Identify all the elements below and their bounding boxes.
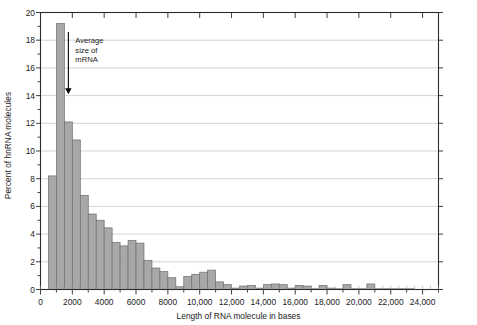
annotation-line-1: Average — [75, 36, 103, 46]
x-tick-label: 6000 — [127, 297, 146, 307]
y-tick-label: 10 — [26, 146, 35, 156]
x-tick-label: 0 — [38, 297, 43, 307]
histogram-bar — [160, 271, 168, 289]
histogram-bar — [367, 284, 375, 290]
histogram-bar — [208, 270, 216, 289]
histogram-bar — [200, 272, 208, 289]
histogram-bar — [96, 220, 104, 289]
annotation-arrow-head — [65, 88, 71, 94]
x-tick-label: 24,000 — [410, 297, 436, 307]
y-tick-label: 18 — [26, 35, 35, 45]
y-tick-label: 12 — [26, 118, 35, 128]
histogram-bar — [263, 285, 271, 290]
histogram-bar — [279, 285, 287, 290]
y-tick-label: 2 — [30, 257, 35, 267]
histogram-bar — [112, 242, 120, 289]
x-tick-label: 20,000 — [346, 297, 372, 307]
y-tick-label: 16 — [26, 63, 35, 73]
x-tick-label: 4000 — [95, 297, 114, 307]
histogram-bar — [216, 282, 224, 290]
y-tick-label: 6 — [30, 201, 35, 211]
average-mrna-annotation: Average size of mRNA — [75, 36, 103, 65]
histogram-bar — [224, 285, 232, 290]
histogram-bar — [343, 285, 351, 290]
histogram-bar — [247, 285, 255, 289]
histogram-bar — [72, 140, 80, 290]
y-tick-label: 20 — [26, 8, 35, 18]
y-tick-label: 8 — [30, 174, 35, 184]
histogram-bar — [120, 246, 128, 290]
y-axis-tick-labels: 02468101214161820 — [16, 0, 38, 290]
y-axis-label: Percent of hnRNA molecules — [5, 91, 14, 198]
histogram-bar — [48, 176, 56, 290]
y-tick-label: 14 — [26, 91, 35, 101]
histogram-bar — [80, 195, 88, 289]
histogram-bar — [144, 260, 152, 289]
x-tick-label: 16,000 — [282, 297, 308, 307]
x-axis-label: Length of RNA molecule in bases — [0, 311, 477, 321]
histogram-bar — [104, 228, 112, 290]
histogram-bar — [192, 274, 200, 289]
x-tick-label: 8000 — [159, 297, 178, 307]
x-tick-label: 2000 — [63, 297, 82, 307]
histogram-bar — [136, 243, 144, 289]
annotation-line-3: mRNA — [75, 55, 103, 65]
x-tick-label: 22,000 — [378, 297, 404, 307]
x-tick-label: 14,000 — [251, 297, 277, 307]
histogram-bar — [128, 240, 136, 289]
histogram-bar — [295, 285, 303, 289]
histogram-bar — [88, 214, 96, 289]
annotation-line-2: size of — [75, 46, 103, 56]
x-tick-label: 10,000 — [187, 297, 213, 307]
histogram-figure: Percent of hnRNA molecules 0246810121416… — [0, 0, 477, 325]
histogram-bar — [64, 122, 72, 290]
histogram-bar — [168, 278, 176, 290]
histogram-bar — [56, 24, 64, 290]
x-tick-label: 18,000 — [314, 297, 340, 307]
histogram-bar — [271, 284, 279, 290]
y-tick-label: 0 — [30, 285, 35, 295]
histogram-bar — [184, 276, 192, 289]
histogram-bar — [319, 285, 327, 289]
y-tick-label: 4 — [30, 229, 35, 239]
plot-area — [0, 0, 477, 325]
x-tick-label: 12,000 — [219, 297, 245, 307]
histogram-bar — [152, 268, 160, 289]
